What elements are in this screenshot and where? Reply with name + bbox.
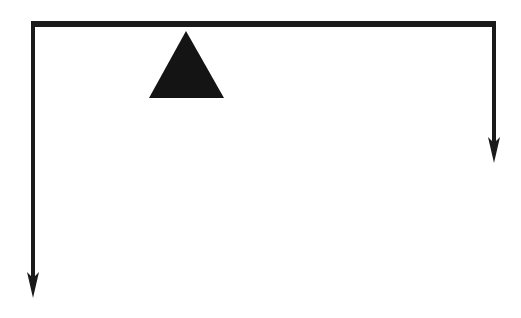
beam xyxy=(31,21,496,27)
right-force-arrow xyxy=(488,27,500,163)
left-arrow-shaft xyxy=(31,27,35,280)
left-force-arrow xyxy=(27,27,39,298)
lever-diagram xyxy=(0,0,521,318)
fulcrum-triangle xyxy=(149,31,224,98)
right-arrow-shaft xyxy=(492,27,496,145)
